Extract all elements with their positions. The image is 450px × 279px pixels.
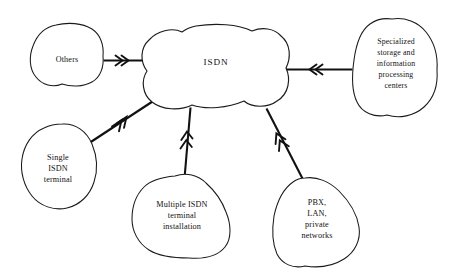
connection-pbx-to-isdn bbox=[267, 109, 304, 181]
node-multiple-isdn-terminal[interactable]: Multiple ISDN terminal installation bbox=[132, 174, 230, 258]
single-isdn-terminal-line-2: ISDN bbox=[48, 164, 68, 173]
specialized-storage-line-3: information bbox=[377, 59, 415, 68]
connection-multiple-terminal-to-isdn bbox=[181, 108, 193, 179]
specialized-storage-line-4: processing bbox=[379, 70, 414, 79]
diagram-canvas: ISDN Others Specialized storage and info… bbox=[0, 0, 450, 279]
node-single-isdn-terminal[interactable]: Single ISDN terminal bbox=[21, 124, 96, 209]
connection-single-terminal-to-isdn bbox=[89, 102, 153, 144]
multiple-isdn-terminal-line-3: installation bbox=[163, 222, 201, 231]
single-isdn-terminal-line-3: terminal bbox=[44, 175, 73, 184]
multiple-isdn-terminal-line-1: Multiple ISDN bbox=[156, 200, 207, 209]
specialized-storage-line-2: storage and bbox=[377, 48, 414, 57]
connection-specialized-to-isdn bbox=[286, 65, 353, 75]
pbx-lan-private-line-4: networks bbox=[301, 231, 332, 240]
specialized-storage-line-5: centers bbox=[384, 81, 407, 90]
node-specialized-storage[interactable]: Specialized storage and information proc… bbox=[352, 19, 437, 117]
others-label: Others bbox=[56, 55, 79, 64]
node-pbx-lan-private[interactable]: PBX, LAN, private networks bbox=[273, 178, 360, 267]
multiple-isdn-terminal-line-2: terminal bbox=[168, 211, 197, 220]
node-others[interactable]: Others bbox=[30, 23, 103, 86]
single-isdn-terminal-line-1: Single bbox=[47, 153, 69, 162]
node-isdn-cloud[interactable]: ISDN bbox=[142, 24, 289, 108]
pbx-lan-private-line-1: PBX, bbox=[308, 198, 327, 207]
specialized-storage-line-1: Specialized bbox=[377, 37, 415, 46]
pbx-lan-private-line-3: private bbox=[305, 220, 329, 229]
isdn-cloud-label: ISDN bbox=[203, 57, 228, 67]
isdn-diagram: ISDN Others Specialized storage and info… bbox=[0, 0, 450, 279]
pbx-lan-private-line-2: LAN, bbox=[307, 209, 326, 218]
